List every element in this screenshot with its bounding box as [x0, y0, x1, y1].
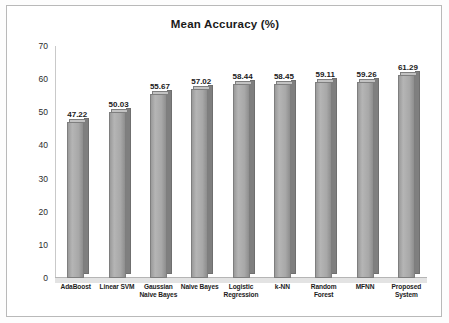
- bar-top: [317, 79, 334, 83]
- bar-4: 58.44LogisticRegression: [233, 84, 250, 278]
- x-tick-label: k-NN: [262, 283, 303, 291]
- bar-8: 61.29ProposedSystem: [398, 75, 415, 278]
- x-tick-label: ProposedSystem: [386, 283, 427, 299]
- x-tick-label-line: AdaBoost: [55, 283, 96, 291]
- bar-value-label: 47.22: [67, 110, 87, 119]
- bar-top: [193, 86, 210, 90]
- bar-value-label: 50.03: [109, 100, 129, 109]
- bar-value-label: 59.11: [315, 70, 335, 79]
- chart-page: Mean Accuracy (%) 010203040506070 47.22A…: [0, 0, 449, 323]
- x-tick-label: Linear SVM: [96, 283, 137, 291]
- bar-side: [208, 85, 213, 274]
- bar-front: [109, 112, 126, 278]
- bar-front: [233, 84, 250, 278]
- y-tick-20: 20: [39, 207, 55, 217]
- x-tick-label-line: Gaussian: [138, 283, 179, 291]
- bar-value-label: 57.02: [191, 77, 211, 86]
- x-tick-label: Naive Bayes: [179, 283, 220, 291]
- bar-top: [400, 72, 417, 76]
- bar-0: 47.22AdaBoost: [67, 122, 84, 279]
- bar-6: 59.11RandomForest: [315, 82, 332, 278]
- x-tick-label: RandomForest: [303, 283, 344, 299]
- bar-front: [398, 75, 415, 278]
- x-tick-label-line: Regression: [220, 291, 261, 299]
- bar-7: 59.26MFNN: [357, 82, 374, 278]
- bar-2: 55.67GaussianNaive Bayes: [150, 94, 167, 279]
- bar-1: 50.03Linear SVM: [109, 112, 126, 278]
- bar-side: [415, 71, 420, 274]
- y-tick-70: 70: [39, 41, 55, 51]
- y-tick-10: 10: [39, 240, 55, 250]
- bar-value-label: 61.29: [398, 63, 418, 72]
- bar-front: [274, 84, 291, 278]
- bar-side: [250, 80, 255, 274]
- y-tick-30: 30: [39, 174, 55, 184]
- x-tick-label-line: Forest: [303, 291, 344, 299]
- figure-frame: Mean Accuracy (%) 010203040506070 47.22A…: [6, 5, 442, 317]
- bar-top: [152, 91, 169, 95]
- x-tick-label: LogisticRegression: [220, 283, 261, 299]
- x-tick-label-line: Logistic: [220, 283, 261, 291]
- bar-value-label: 55.67: [150, 82, 170, 91]
- x-tick-label-line: Linear SVM: [96, 283, 137, 291]
- y-tick-0: 0: [43, 273, 55, 283]
- bar-side: [291, 80, 296, 274]
- x-tick-label-line: MFNN: [344, 283, 385, 291]
- x-tick-label: AdaBoost: [55, 283, 96, 291]
- bar-value-label: 58.44: [233, 72, 253, 81]
- y-tick-60: 60: [39, 74, 55, 84]
- x-tick-label-line: k-NN: [262, 283, 303, 291]
- x-tick-label: MFNN: [344, 283, 385, 291]
- bar-side: [84, 118, 89, 275]
- plot-area: 010203040506070 47.22AdaBoost50.03Linear…: [55, 46, 427, 278]
- chart-title: Mean Accuracy (%): [7, 18, 443, 30]
- bar-top: [69, 119, 86, 123]
- bar-5: 58.45k-NN: [274, 84, 291, 278]
- x-tick-label-line: Naive Bayes: [179, 283, 220, 291]
- bar-top: [359, 79, 376, 83]
- y-tick-50: 50: [39, 107, 55, 117]
- bar-side: [374, 78, 379, 274]
- bar-front: [191, 89, 208, 278]
- bar-front: [150, 94, 167, 279]
- bar-top: [235, 81, 252, 85]
- bar-front: [67, 122, 84, 279]
- bar-front: [315, 82, 332, 278]
- x-tick-label-line: System: [386, 291, 427, 299]
- bar-3: 57.02Naive Bayes: [191, 89, 208, 278]
- y-tick-40: 40: [39, 140, 55, 150]
- bar-value-label: 58.45: [274, 72, 294, 81]
- bar-front: [357, 82, 374, 278]
- bar-side: [167, 90, 172, 275]
- bar-top: [111, 109, 128, 113]
- x-tick-label-line: Naive Bayes: [138, 291, 179, 299]
- x-tick-label-line: Random: [303, 283, 344, 291]
- x-tick-label: GaussianNaive Bayes: [138, 283, 179, 299]
- bar-top: [276, 81, 293, 85]
- bar-side: [126, 108, 131, 274]
- x-tick-label-line: Proposed: [386, 283, 427, 291]
- bar-value-label: 59.26: [357, 70, 377, 79]
- bar-side: [332, 78, 337, 274]
- bar-series: 47.22AdaBoost50.03Linear SVM55.67Gaussia…: [55, 46, 427, 278]
